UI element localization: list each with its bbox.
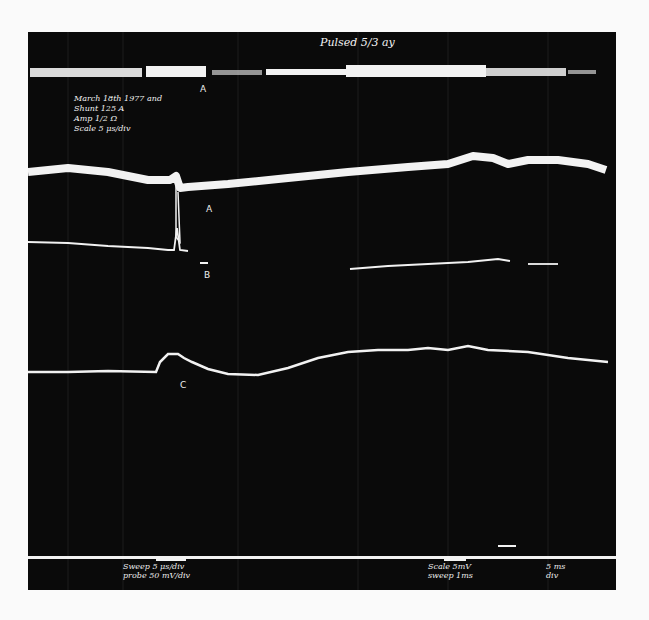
trace-a — [28, 156, 606, 188]
footer-left: Sweep 5 μs/div probe 50 mV/div — [123, 562, 190, 580]
trace-label-b: B — [204, 270, 210, 280]
title-note: Pulsed 5/3 ay — [320, 36, 395, 49]
oscillograph-record: Pulsed 5/3 ay A March 18th 1977 and Shun… — [28, 32, 616, 590]
annotation-notes: March 18th 1977 and Shunt 125 A Amp 1/2 … — [74, 94, 162, 134]
footer-line: Scale 5mV — [428, 562, 473, 571]
trace-label-a: A — [206, 204, 212, 214]
note-line: Scale 5 μs/div — [74, 124, 162, 134]
trace-label-c: C — [180, 380, 186, 390]
trace-c — [28, 346, 608, 375]
marker-a-top: A — [200, 84, 206, 94]
note-line: Amp 1/2 Ω — [74, 114, 162, 124]
trace-b — [28, 228, 188, 251]
divider-line — [28, 556, 616, 559]
footer-line: Sweep 5 μs/div — [123, 562, 190, 571]
timing-band — [30, 65, 596, 77]
footer-line: 5 ms — [546, 562, 565, 571]
footer-right: 5 ms div — [546, 562, 565, 580]
footer-line: probe 50 mV/div — [123, 571, 190, 580]
footer-line: div — [546, 571, 565, 580]
note-line: March 18th 1977 and — [74, 94, 162, 104]
footer-line: sweep 1ms — [428, 571, 473, 580]
footer-mid: Scale 5mV sweep 1ms — [428, 562, 473, 580]
note-line: Shunt 125 A — [74, 104, 162, 114]
